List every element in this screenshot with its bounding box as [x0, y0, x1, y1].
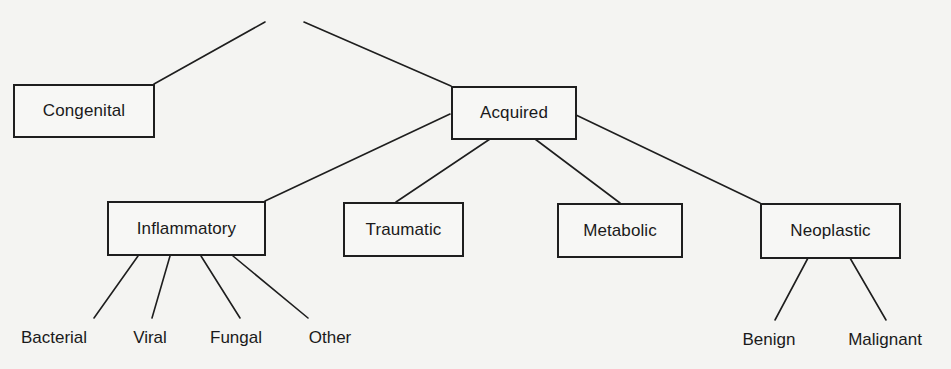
node-congenital-label: Congenital: [43, 101, 125, 121]
leaf-other: Other: [309, 328, 352, 348]
node-traumatic-label: Traumatic: [366, 220, 442, 240]
leaf-malignant: Malignant: [848, 330, 922, 350]
node-inflammatory: Inflammatory: [107, 201, 266, 256]
edge-inflammatory-viral: [152, 256, 170, 318]
node-acquired: Acquired: [451, 86, 577, 140]
edge-acquired-traumatic: [396, 139, 490, 202]
edge-acquired-inflammatory: [265, 114, 450, 201]
classification-tree-diagram: Congenital Acquired Inflammatory Traumat…: [0, 0, 951, 369]
node-metabolic-label: Metabolic: [583, 221, 657, 241]
edge-acquired-metabolic: [535, 139, 620, 203]
edge-inflammatory-bacterial: [94, 256, 138, 318]
node-metabolic: Metabolic: [557, 203, 683, 258]
node-congenital: Congenital: [13, 84, 155, 138]
node-neoplastic-label: Neoplastic: [790, 221, 870, 241]
edge-root-acquired: [304, 22, 451, 86]
node-inflammatory-label: Inflammatory: [137, 219, 236, 239]
node-neoplastic: Neoplastic: [760, 203, 901, 259]
edge-neoplastic-benign: [775, 258, 808, 320]
edge-neoplastic-malignant: [850, 258, 886, 320]
tree-edges: [0, 0, 951, 369]
node-acquired-label: Acquired: [480, 103, 548, 123]
edge-root-congenital: [154, 22, 265, 84]
leaf-benign: Benign: [743, 330, 796, 350]
edge-inflammatory-fungal: [201, 256, 240, 318]
leaf-fungal: Fungal: [210, 328, 262, 348]
leaf-viral: Viral: [133, 328, 167, 348]
node-traumatic: Traumatic: [343, 202, 464, 257]
edge-inflammatory-other: [233, 256, 308, 318]
leaf-bacterial: Bacterial: [21, 328, 87, 348]
